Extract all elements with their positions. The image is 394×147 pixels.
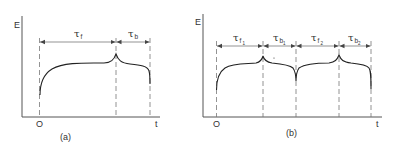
interval-label-tau-f1: τ f 1 — [233, 32, 246, 46]
svg-text:τ: τ — [348, 32, 354, 43]
svg-text:f: f — [240, 37, 242, 44]
svg-text:1: 1 — [243, 41, 246, 46]
origin-label-a: O — [36, 119, 43, 129]
x-axis-label-a: t — [155, 119, 158, 129]
caption-a: (a) — [60, 132, 71, 142]
svg-text:τ: τ — [74, 28, 80, 39]
caption-b: (b) — [286, 128, 297, 138]
x-axis-label-b: t — [376, 119, 379, 129]
diagram-canvas: E O t (a) τ f τ b E O t (b) — [0, 0, 394, 147]
svg-text:2: 2 — [358, 41, 361, 46]
y-axis-label-a: E — [14, 20, 20, 30]
panel-b: E O t (b) τ f 1 τ b 1 τ f 2 τ — [195, 14, 382, 138]
svg-text:1: 1 — [283, 41, 286, 46]
svg-text:τ: τ — [233, 32, 239, 43]
interval-label-tau-f2: τ f 2 — [311, 32, 324, 46]
interval-label-tau-f: τ f — [74, 28, 83, 40]
svg-text:f: f — [81, 33, 83, 40]
svg-text:b: b — [135, 33, 139, 40]
stray-dot — [273, 57, 274, 58]
svg-text:τ: τ — [311, 32, 317, 43]
svg-text:2: 2 — [321, 41, 324, 46]
e-curve-b — [217, 55, 372, 90]
svg-text:f: f — [318, 37, 320, 44]
svg-text:τ: τ — [128, 28, 134, 39]
origin-label-b: O — [213, 119, 220, 129]
panel-a: E O t (a) τ f τ b — [14, 16, 160, 142]
interval-label-tau-b1: τ b 1 — [273, 32, 286, 46]
y-axis-label-b: E — [195, 17, 201, 27]
e-curve-a — [40, 54, 150, 95]
interval-label-tau-b: τ b — [128, 28, 139, 40]
svg-text:τ: τ — [273, 32, 279, 43]
interval-label-tau-b2: τ b 2 — [348, 32, 361, 46]
